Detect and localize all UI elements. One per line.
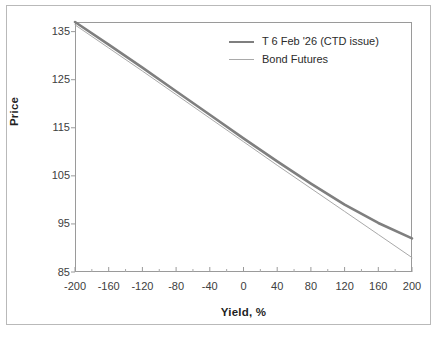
legend-label: T 6 Feb '26 (CTD issue) <box>255 35 379 47</box>
legend-label: Bond Futures <box>255 53 328 65</box>
y-axis-title: Price <box>8 97 20 126</box>
legend-swatch-line-icon <box>228 53 255 65</box>
x-axis-title: Yield, % <box>75 306 412 318</box>
legend-item: T 6 Feb '26 (CTD issue) <box>228 33 408 49</box>
legend-item: Bond Futures <box>228 51 408 67</box>
legend-swatch-line-icon <box>228 35 255 47</box>
x-tick-label: 200 <box>389 281 435 292</box>
chart-legend: T 6 Feb '26 (CTD issue)Bond Futures <box>228 33 408 69</box>
chart-figure: 8595105115125135 -200-160-120-80-4004080… <box>0 0 442 344</box>
